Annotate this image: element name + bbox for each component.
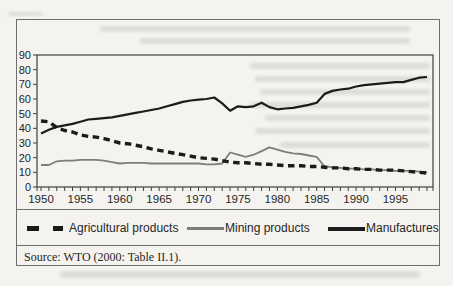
series-line-agricultural-products bbox=[41, 121, 427, 173]
y-axis-tick-label: 50 bbox=[19, 108, 31, 120]
bleed-through-artifact bbox=[8, 12, 43, 16]
mining-line-swatch-icon bbox=[187, 227, 224, 230]
y-axis-tick-label: 0 bbox=[25, 181, 31, 193]
source-note: Source: WTO (2000: Table II.1). bbox=[24, 250, 181, 265]
source-divider bbox=[17, 245, 439, 246]
bleed-through-artifact bbox=[60, 271, 420, 278]
x-axis-tick-label: 1990 bbox=[343, 193, 369, 205]
y-axis-tick-label: 90 bbox=[19, 49, 31, 61]
legend-label-mining: Mining products bbox=[225, 221, 310, 235]
x-axis-tick-label: 1950 bbox=[28, 193, 54, 205]
y-axis-tick-label: 30 bbox=[19, 137, 31, 149]
legend-label-agricultural: Agricultural products bbox=[69, 221, 178, 235]
x-axis-tick-label: 1970 bbox=[186, 193, 212, 205]
chart: 9080706050403020100195019551960196519701… bbox=[17, 20, 439, 209]
x-axis-tick-label: 1975 bbox=[225, 193, 251, 205]
y-axis-tick-label: 40 bbox=[19, 122, 31, 134]
legend: Agricultural products Mining products Ma… bbox=[17, 209, 439, 245]
series-line-manufactures bbox=[41, 77, 427, 134]
x-axis-tick-label: 1955 bbox=[68, 193, 94, 205]
y-axis-tick-label: 80 bbox=[19, 64, 31, 76]
y-axis-tick-label: 70 bbox=[19, 78, 31, 90]
x-axis-tick-label: 1985 bbox=[304, 193, 330, 205]
figure-box: 9080706050403020100195019551960196519701… bbox=[16, 19, 440, 266]
agricultural-dash-swatch-icon bbox=[53, 226, 63, 231]
x-axis-tick-label: 1960 bbox=[107, 193, 133, 205]
y-axis-tick-label: 20 bbox=[19, 152, 31, 164]
chart-svg: 9080706050403020100195019551960196519701… bbox=[17, 20, 439, 209]
x-axis-tick-label: 1980 bbox=[265, 193, 291, 205]
manufactures-line-swatch-icon bbox=[328, 227, 365, 231]
plot-frame bbox=[37, 55, 433, 187]
y-axis-tick-label: 10 bbox=[19, 166, 31, 178]
x-axis-tick-label: 1965 bbox=[146, 193, 172, 205]
legend-label-manufactures: Manufactures bbox=[366, 221, 439, 235]
agricultural-dash-swatch-icon bbox=[27, 226, 39, 231]
y-axis-tick-label: 60 bbox=[19, 93, 31, 105]
x-axis-tick-label: 1995 bbox=[383, 193, 409, 205]
